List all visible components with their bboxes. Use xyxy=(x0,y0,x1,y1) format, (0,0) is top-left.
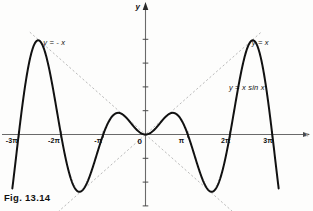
x-tick-label: -π xyxy=(94,137,102,144)
x-tick-label: 3π xyxy=(263,137,273,144)
envelope-line-positive xyxy=(51,32,261,211)
annotation-envelope-positive: y = x xyxy=(252,38,269,47)
y-axis-arrowhead xyxy=(143,2,149,10)
y-axis-label: y xyxy=(136,2,141,11)
axes-group xyxy=(2,2,310,211)
annotation-curve: y = x sin x xyxy=(229,83,265,92)
x-tick-label: -2π xyxy=(48,137,60,144)
x-axis-label: x xyxy=(305,131,309,138)
origin-label: 0 xyxy=(138,137,143,146)
annotation-envelope-negative: y = - x xyxy=(43,38,65,47)
chart-plot-area xyxy=(0,0,313,211)
envelope-line-negative xyxy=(30,32,240,211)
figure-container: -3π-2π-π0π2π3π y x y = - x y = x y = x s… xyxy=(0,0,313,211)
x-tick-label: -3π xyxy=(6,137,18,144)
x-tick-label: 2π xyxy=(221,137,231,144)
figure-caption: Fig. 13.14 xyxy=(4,192,50,203)
x-tick-label: π xyxy=(179,137,185,144)
